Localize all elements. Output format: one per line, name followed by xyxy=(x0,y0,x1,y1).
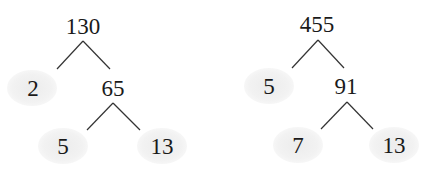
prime-leaf-node: 2 xyxy=(27,77,39,100)
composite-node: 65 xyxy=(102,77,125,100)
prime-leaf-node: 7 xyxy=(292,134,304,157)
factor-tree-130: 130 2 65 5 13 xyxy=(0,0,213,169)
prime-leaf-node: 13 xyxy=(383,134,406,157)
root-node: 130 xyxy=(66,15,101,38)
prime-leaf-node: 13 xyxy=(151,135,174,158)
root-node: 455 xyxy=(300,13,335,36)
prime-leaf-node: 5 xyxy=(57,135,69,158)
composite-node: 91 xyxy=(335,75,358,98)
prime-leaf-node: 5 xyxy=(263,75,275,98)
factor-tree-455: 455 5 91 7 13 xyxy=(213,0,426,169)
